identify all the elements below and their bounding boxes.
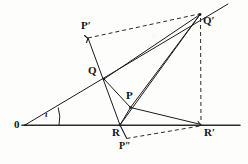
edge-P-Rprime — [131, 108, 202, 125]
dash-Pdprime-Rprime — [127, 126, 201, 139]
vertex-dot-O — [24, 124, 26, 126]
tick-Pprime — [85, 36, 89, 43]
dash-Qprime-Rprime — [201, 18, 202, 123]
angle-label-iota: ι — [45, 110, 48, 119]
edge-R-Qprime — [120, 15, 200, 126]
point-label-Q: Q — [88, 65, 97, 76]
point-label-Pdoubleprime: P″ — [119, 141, 131, 151]
point-label-P: P — [126, 90, 133, 101]
point-label-Pprime: P′ — [81, 20, 91, 31]
point-label-R: R — [112, 127, 120, 138]
diagram-canvas: 0 P′ Q P R R′ Q′ P″ ι — [0, 0, 248, 164]
edge-R-Pdprime — [120, 125, 127, 138]
edge-Pprime-R — [88, 38, 120, 125]
vertex-dot-Q — [103, 78, 106, 81]
vertex-dot-P — [129, 106, 132, 109]
point-label-Rprime: R′ — [204, 127, 215, 138]
angle-arc — [58, 108, 60, 126]
point-ticks-group — [85, 36, 202, 126]
point-label-Qprime: Q′ — [203, 15, 215, 26]
ray-O-Qprime-line — [25, 4, 228, 125]
dashed-edges-group — [88, 14, 201, 139]
point-label-O: 0 — [14, 119, 20, 130]
vertex-dot-Qprime — [199, 13, 202, 16]
